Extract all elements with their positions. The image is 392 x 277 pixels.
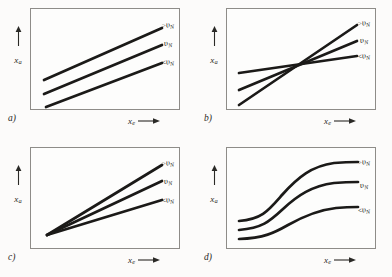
panel-b: >υN υN <υN xa xe b): [196, 0, 392, 138]
curve-label-d-lower: <υN: [357, 204, 370, 216]
right-arrow-icon: [138, 256, 160, 264]
y-axis-label-c: xa: [6, 194, 30, 204]
curve-label-a-lower: <υN: [161, 56, 174, 68]
curve-d-lower: [239, 207, 358, 239]
x-axis-a: xe: [128, 116, 160, 126]
curves-b: [226, 8, 376, 110]
figure-container: >υN υN <υN xa xe a): [0, 0, 392, 277]
panel-letter-d: d): [204, 252, 212, 262]
x-axis-label-c: xe: [128, 255, 135, 265]
curve-label-c-upper: >υN: [161, 157, 174, 169]
up-arrow-icon: [14, 26, 23, 46]
curve-c-middle: [47, 181, 162, 235]
curve-d-upper: [239, 162, 358, 221]
y-axis-label-a: xa: [6, 55, 30, 65]
curves-c: [30, 147, 180, 249]
y-axis-label-b: xa: [202, 55, 226, 65]
curve-label-a-middle: υN: [163, 37, 172, 49]
curve-label-c-middle: υN: [163, 175, 172, 187]
panel-letter-a: a): [8, 113, 16, 123]
x-axis-c: xe: [128, 255, 160, 265]
up-arrow-icon: [14, 165, 23, 185]
curve-label-b-middle: υN: [359, 34, 368, 46]
curves-a: [30, 8, 180, 110]
curve-label-d-middle: υN: [359, 179, 368, 191]
right-arrow-icon: [334, 256, 356, 264]
y-axis-d: xa: [202, 165, 226, 204]
curve-label-b-lower: <υN: [357, 50, 370, 62]
curve-label-c-lower: <υN: [161, 194, 174, 206]
x-axis-label-b: xe: [324, 116, 331, 126]
right-arrow-icon: [138, 117, 160, 125]
up-arrow-icon: [210, 165, 219, 185]
curve-label-a-upper: >υN: [161, 19, 174, 31]
curve-label-d-upper: >υN: [357, 156, 370, 168]
curve-c-lower: [47, 200, 162, 235]
y-axis-a: xa: [6, 26, 30, 65]
panel-letter-b: b): [204, 113, 212, 123]
x-axis-d: xe: [324, 255, 356, 265]
y-axis-c: xa: [6, 165, 30, 204]
x-axis-label-d: xe: [324, 255, 331, 265]
x-axis-label-a: xe: [128, 116, 135, 126]
curve-c-upper: [47, 165, 162, 235]
panel-letter-c: c): [8, 252, 15, 262]
up-arrow-icon: [210, 26, 219, 46]
curve-a-upper: [44, 28, 162, 80]
panel-d: >υN υN <υN xa xe d): [196, 139, 392, 277]
curve-b-lower: [239, 56, 357, 73]
y-axis-b: xa: [202, 26, 226, 65]
curves-d: [226, 147, 376, 249]
x-axis-b: xe: [324, 116, 356, 126]
curve-d-middle: [239, 182, 358, 230]
curve-label-b-upper: >υN: [357, 17, 370, 29]
right-arrow-icon: [334, 117, 356, 125]
panel-a: >υN υN <υN xa xe a): [0, 0, 196, 138]
panel-c: >υN υN <υN xa xe c): [0, 139, 196, 277]
y-axis-label-d: xa: [202, 194, 226, 204]
